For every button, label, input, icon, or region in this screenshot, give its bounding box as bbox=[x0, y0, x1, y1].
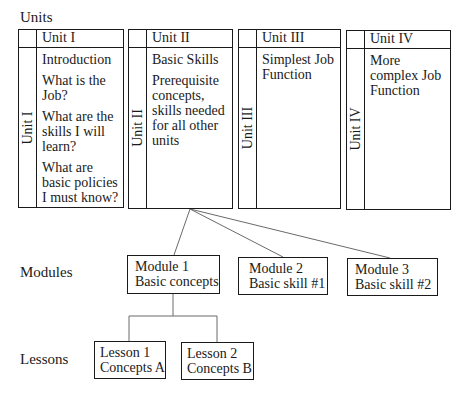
unit-2-header: Unit II bbox=[147, 30, 232, 48]
unit-1-side-label: Unit I bbox=[19, 48, 37, 207]
connector-unit2-module3 bbox=[190, 209, 390, 258]
lesson-1-subtitle: Concepts A bbox=[100, 360, 165, 375]
unit-2-body: Basic Skills Prerequisite concepts, skil… bbox=[147, 48, 232, 208]
unit-1-line: What is the Job? bbox=[42, 73, 120, 103]
unit-4-line: More complex Job Function bbox=[370, 53, 447, 98]
unit-2-line: Prerequisite concepts, skills needed for… bbox=[152, 73, 229, 148]
units-label: Units bbox=[20, 9, 53, 25]
connector-unit2-module1 bbox=[174, 209, 190, 255]
unit-1-header: Unit I bbox=[37, 30, 123, 48]
unit-2-line: Basic Skills bbox=[152, 52, 229, 67]
module-3-title: Module 3 bbox=[355, 262, 437, 277]
unit-3-header: Unit III bbox=[257, 30, 340, 48]
module-1-title: Module 1 bbox=[135, 259, 219, 274]
module-2-title: Module 2 bbox=[249, 261, 327, 276]
module-3-subtitle: Basic skill #2 bbox=[355, 277, 437, 292]
module-2-box: Module 2 Basic skill #1 bbox=[238, 257, 328, 295]
unit-4-card: Unit IV Unit IV More complex Job Functio… bbox=[346, 30, 451, 210]
lessons-label: Lessons bbox=[20, 351, 68, 367]
unit-1-card: Unit I Unit I Introduction What is the J… bbox=[18, 29, 124, 208]
unit-1-line: What are the skills I will learn? bbox=[42, 109, 120, 154]
module-3-box: Module 3 Basic skill #2 bbox=[347, 258, 438, 296]
unit-4-header: Unit IV bbox=[365, 31, 450, 49]
unit-3-side-label: Unit III bbox=[239, 48, 257, 208]
unit-1-line: What are basic policies I must know? bbox=[42, 160, 120, 205]
modules-label: Modules bbox=[20, 264, 73, 280]
module-1-box: Module 1 Basic concepts bbox=[127, 255, 220, 294]
lesson-2-subtitle: Concepts B bbox=[187, 361, 253, 376]
lesson-1-title: Lesson 1 bbox=[100, 345, 165, 360]
unit-1-line: Introduction bbox=[42, 52, 120, 67]
unit-4-side-label: Unit IV bbox=[347, 49, 365, 209]
unit-2-card: Unit II Unit II Basic Skills Prerequisit… bbox=[128, 29, 233, 209]
lesson-1-box: Lesson 1 Concepts A bbox=[94, 341, 166, 379]
unit-4-body: More complex Job Function bbox=[365, 49, 450, 209]
module-1-subtitle: Basic concepts bbox=[135, 274, 219, 289]
unit-1-body: Introduction What is the Job? What are t… bbox=[37, 48, 123, 207]
unit-3-line: Simplest Job Function bbox=[262, 52, 337, 82]
unit-3-card: Unit III Unit III Simplest Job Function bbox=[238, 29, 341, 209]
connector-unit2-module2 bbox=[190, 209, 283, 257]
lesson-2-box: Lesson 2 Concepts B bbox=[181, 342, 254, 380]
unit-2-side-label: Unit II bbox=[129, 48, 147, 208]
lesson-2-title: Lesson 2 bbox=[187, 346, 253, 361]
unit-3-body: Simplest Job Function bbox=[257, 48, 340, 208]
module-2-subtitle: Basic skill #1 bbox=[249, 276, 327, 291]
